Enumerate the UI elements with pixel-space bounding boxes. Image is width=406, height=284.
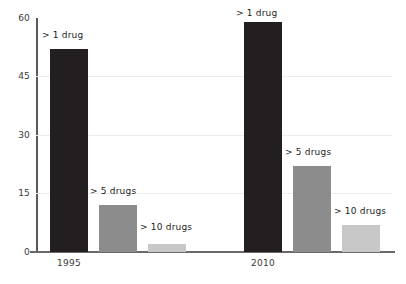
y-tick-30: 30: [18, 130, 30, 140]
gridline-45: [36, 76, 392, 77]
bar-label-2010-gt5drugs: > 5 drugs: [285, 147, 331, 157]
gridline-30: [36, 135, 392, 136]
x-tick-1995: 1995: [57, 258, 81, 268]
y-tick-15: 15: [18, 188, 30, 198]
bar-2010-gt10drugs: [342, 225, 380, 252]
bar-label-1995-gt5drugs: > 5 drugs: [90, 186, 136, 196]
bar-label-2010-gt10drugs: > 10 drugs: [334, 206, 386, 216]
bar-2010-gt5drugs: [293, 166, 331, 252]
y-tick-60: 60: [18, 13, 30, 23]
x-tick-2010: 2010: [251, 258, 275, 268]
bar-1995-gt1drug: [50, 49, 88, 252]
y-axis-tick-labels: 60 45 30 15 0: [0, 0, 30, 284]
bar-label-2010-gt1drug: > 1 drug: [236, 8, 277, 18]
bar-label-1995-gt1drug: > 1 drug: [42, 30, 83, 40]
y-tick-45: 45: [18, 71, 30, 81]
plot-area: > 1 drug > 5 drugs > 10 drugs > 1 drug >…: [36, 18, 392, 252]
bar-label-1995-gt10drugs: > 10 drugs: [140, 222, 192, 232]
cropped-title-remnant: [0, 0, 406, 5]
bar-1995-gt5drugs: [99, 205, 137, 252]
bar-1995-gt10drugs: [148, 244, 186, 252]
bar-2010-gt1drug: [244, 22, 282, 252]
bar-chart: 60 45 30 15 0 > 1 drug > 5 drugs > 10 dr…: [0, 0, 406, 284]
